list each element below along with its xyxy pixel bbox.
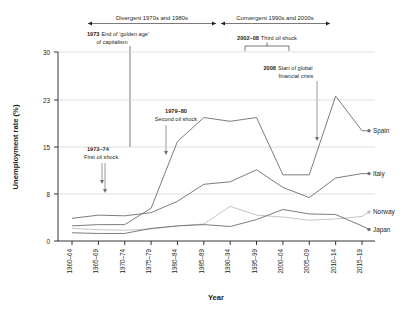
x-tick-label-2000–04: 2000–04	[277, 249, 284, 274]
annotation-first-oil-shock: 1973–74 First oil shock	[84, 146, 118, 193]
annotation-golden-age: 1973End of 'golden age' of capitalism	[87, 31, 149, 147]
period-label-divergent: Divergent 1970s and 1980s	[116, 15, 188, 21]
y-tick-15: 15	[43, 144, 51, 151]
series-line-spain	[72, 96, 362, 226]
x-tick-label-2005–09: 2005–09	[303, 249, 310, 274]
x-tick-label-1965–69: 1965–69	[92, 249, 99, 274]
series-labels: SpainItalyNorwayJapan	[362, 127, 395, 234]
annotation-financial-crisis-bold: 2008	[264, 65, 276, 71]
series-line-norway	[72, 206, 362, 230]
annotation-third-oil-shock-label: Third oil shock	[261, 35, 297, 41]
y-axis-title: Unemployment rate (%)	[11, 104, 20, 189]
series-label-italy: Italy	[373, 170, 386, 178]
x-tick-label-2015–19: 2015–19	[356, 249, 363, 274]
series-label-norway: Norway	[373, 208, 395, 216]
x-tick-label-2010–14: 2010–14	[330, 249, 337, 274]
series-layer	[72, 96, 362, 233]
annotation-financial-crisis: 2008Start of global financial crisis	[264, 65, 319, 141]
annotation-third-oil-shock-text: 2002–08Third oil shock	[237, 35, 297, 41]
annotation-first-oil-shock-arrows	[100, 163, 107, 193]
x-tick-label-1975–79: 1975–79	[145, 249, 152, 274]
annotation-third-oil-shock: 2002–08Third oil shock	[237, 35, 297, 51]
period-span-convergent: Convergent 1990s and 2000s	[221, 15, 330, 26]
y-tick-30: 30	[43, 49, 51, 56]
annotation-golden-age-line1: 1973End of 'golden age'	[87, 31, 149, 37]
annotation-financial-crisis-line2: financial crisis	[279, 73, 314, 79]
y-axis-ticks	[54, 52, 58, 241]
y-axis-tick-labels: 30 23 15 8 0	[43, 49, 51, 245]
series-label-japan: Japan	[373, 226, 391, 234]
annotation-financial-crisis-text: Start of global	[278, 65, 313, 71]
period-span-divergent: Divergent 1970s and 1980s	[88, 15, 216, 26]
annotation-golden-age-bold: 1973	[87, 31, 99, 37]
annotation-golden-age-line2: of capitalism	[96, 39, 127, 45]
x-tick-label-1995–99: 1995–99	[251, 249, 258, 274]
x-axis-ticks	[72, 241, 362, 245]
unemployment-rate-chart: Divergent 1970s and 1980s Convergent 199…	[0, 0, 415, 311]
y-tick-0: 0	[46, 238, 50, 245]
series-marker-italy	[367, 172, 370, 175]
series-marker-spain	[367, 129, 370, 132]
x-axis-title: Year	[208, 293, 224, 302]
annotation-second-oil-shock-text: Second oil shock	[155, 116, 197, 122]
annotation-second-oil-shock: 1979–80 Second oil shock	[155, 108, 197, 155]
gridlines	[58, 52, 375, 194]
annotation-second-oil-shock-bold: 1979–80	[165, 108, 187, 114]
axes: 30 23 15 8 0 1960–641965–691970–741975–7…	[11, 49, 375, 303]
annotation-third-oil-shock-bracket	[245, 46, 289, 51]
annotation-third-oil-shock-bold: 2002–08	[237, 35, 259, 41]
x-tick-label-1960–64: 1960–64	[66, 249, 73, 274]
x-tick-label-1990–94: 1990–94	[224, 249, 231, 274]
period-label-convergent: Convergent 1990s and 2000s	[236, 15, 313, 21]
period-spans: Divergent 1970s and 1980s Convergent 199…	[88, 15, 330, 26]
x-tick-label-1980–84: 1980–84	[171, 249, 178, 274]
series-marker-japan	[367, 228, 370, 231]
series-marker-norway	[367, 210, 370, 213]
annotation-golden-age-text: End of 'golden age'	[101, 31, 149, 37]
annotation-financial-crisis-line1: 2008Start of global	[264, 65, 313, 71]
chart-svg: Divergent 1970s and 1980s Convergent 199…	[0, 0, 415, 311]
y-tick-8: 8	[46, 191, 50, 198]
x-axis-tick-labels: 1960–641965–691970–741975–791980–841985–…	[66, 249, 363, 274]
y-tick-23: 23	[43, 97, 51, 104]
x-tick-label-1985–89: 1985–89	[198, 249, 205, 274]
x-tick-label-1970–74: 1970–74	[119, 249, 126, 274]
annotation-first-oil-shock-text: First oil shock	[84, 154, 118, 160]
series-label-spain: Spain	[373, 127, 390, 135]
